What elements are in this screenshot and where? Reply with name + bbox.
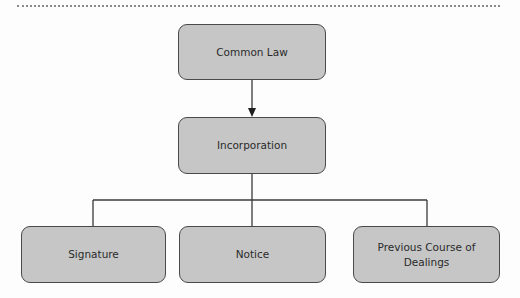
node-label: Common Law xyxy=(216,45,288,60)
arrowhead-icon xyxy=(248,108,256,117)
node-notice: Notice xyxy=(179,226,326,283)
node-label: Notice xyxy=(236,247,270,262)
node-label: Incorporation xyxy=(217,138,287,153)
node-previous-course-of-dealings: Previous Course of Dealings xyxy=(353,226,500,283)
node-label: Previous Course of Dealings xyxy=(376,240,477,270)
node-signature: Signature xyxy=(21,226,166,283)
node-incorporation: Incorporation xyxy=(178,117,326,174)
node-label: Signature xyxy=(68,247,119,262)
node-common-law: Common Law xyxy=(178,24,326,80)
